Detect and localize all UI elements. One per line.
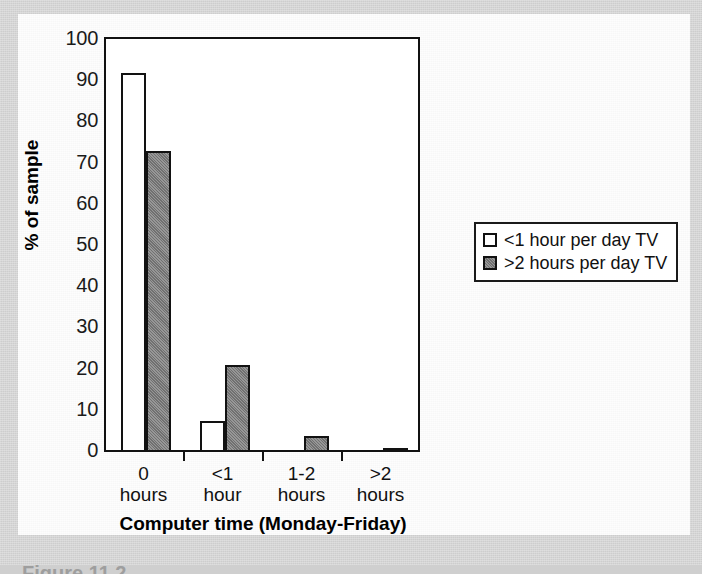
y-axis-tick-label: 70 [54, 150, 98, 173]
bar [225, 365, 250, 452]
bar [146, 151, 171, 452]
y-axis-tick-label: 100 [54, 27, 98, 50]
y-axis-tick-label: 60 [54, 191, 98, 214]
bar [121, 73, 146, 452]
y-axis-tick-labels: 0102030405060708090100 [48, 37, 98, 452]
legend-swatch-open [483, 233, 497, 247]
bar-group-container [106, 39, 418, 452]
x-axis-tick-label-line1: 1-2 [288, 463, 315, 484]
y-axis-tick-label: 0 [54, 439, 98, 462]
x-axis-tick-mark [262, 452, 264, 461]
y-axis-tick-label: 90 [54, 68, 98, 91]
legend-swatch-filled [483, 256, 497, 270]
y-axis-title: % of sample [21, 100, 43, 290]
legend-item-label: >2 hours per day TV [504, 252, 667, 275]
y-axis-tick-label: 50 [54, 233, 98, 256]
bar [304, 436, 329, 452]
figure-caption: Figure 11.2 [22, 562, 127, 574]
x-axis-tick-mark [341, 452, 343, 461]
x-axis-tick-label: >2hours [329, 463, 433, 506]
x-axis-tick-label-line1: <1 [212, 463, 234, 484]
x-axis-tick-label-line1: >2 [370, 463, 392, 484]
legend-item-label: <1 hour per day TV [504, 229, 658, 252]
y-axis-tick-label: 80 [54, 109, 98, 132]
y-axis-tick-label: 30 [54, 315, 98, 338]
y-axis-tick-label: 20 [54, 356, 98, 379]
x-axis-title: Computer time (Monday-Friday) [104, 513, 422, 535]
y-axis-tick-label: 10 [54, 397, 98, 420]
legend-item: >2 hours per day TV [483, 252, 667, 275]
legend-item: <1 hour per day TV [483, 229, 667, 252]
bar [383, 448, 408, 452]
y-axis-tick-label: 40 [54, 274, 98, 297]
x-axis-tick-label-line1: 0 [138, 463, 149, 484]
x-axis-tick-label-line2: hours [329, 484, 433, 505]
bar [200, 421, 225, 452]
chart-legend: <1 hour per day TV>2 hours per day TV [474, 222, 678, 282]
x-axis-tick-mark [183, 452, 185, 461]
